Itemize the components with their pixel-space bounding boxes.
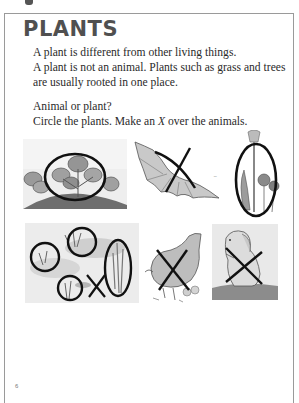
flowers-image [232, 130, 284, 220]
pond-scene-image [25, 223, 139, 303]
illustration-leafy-plant[interactable] [23, 139, 127, 209]
leafy-plant-image [23, 139, 127, 209]
question-line: Animal or plant? [33, 99, 112, 114]
illustration-hen[interactable] [143, 228, 208, 304]
illustration-dog[interactable] [212, 224, 278, 300]
page-number: 6 [15, 383, 18, 389]
scan-artifact [25, 0, 33, 5]
illustration-flowers[interactable] [232, 130, 284, 220]
hen-image [143, 228, 208, 304]
instruction-text-after: over the animals. [165, 115, 247, 128]
illustration-pond-scene[interactable] [25, 223, 139, 303]
instruction-line: Circle the plants. Make an X over the an… [33, 114, 247, 129]
intro-line-1: A plant is different from other living t… [33, 45, 236, 60]
instruction-text-before: Circle the plants. Make an [33, 115, 158, 128]
svg-text:~: ~ [213, 173, 217, 179]
dog-image [212, 224, 278, 300]
intro-line-2: A plant is not an animal. Plants such as… [33, 60, 285, 75]
intro-line-3: are usually rooted in one place. [33, 75, 178, 90]
illustration-bat[interactable]: ~ [133, 140, 223, 202]
page-title: PLANTS [23, 17, 118, 41]
instruction-text-x: X [158, 115, 165, 128]
bat-image: ~ [133, 140, 223, 202]
